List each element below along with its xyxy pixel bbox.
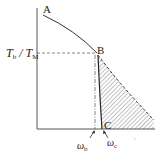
omega-b-label: ωb bbox=[77, 141, 88, 153]
point-b-label: B bbox=[97, 45, 104, 56]
y-label-t1: T bbox=[6, 46, 13, 60]
omega-c-symbol: ω bbox=[107, 137, 114, 148]
point-c-label: C bbox=[104, 120, 111, 131]
y-label-slash: / bbox=[16, 46, 25, 60]
diagram: A B C Tb / TM ωb ωc bbox=[0, 0, 160, 157]
curve-a-b bbox=[43, 15, 97, 53]
omega-b-sub: b bbox=[84, 145, 88, 153]
omega-b-symbol: ω bbox=[77, 140, 84, 151]
y-axis-label: Tb / TM bbox=[6, 47, 38, 61]
y-label-sub2: M bbox=[32, 53, 38, 61]
omega-c-sub: c bbox=[114, 142, 117, 150]
point-a-label: A bbox=[43, 4, 51, 15]
hatched-region bbox=[98, 55, 154, 129]
omega-c-label: ωc bbox=[107, 138, 117, 150]
diagram-graphics bbox=[0, 0, 160, 157]
